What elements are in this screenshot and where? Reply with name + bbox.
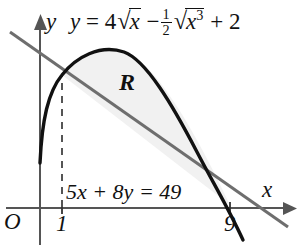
x-axis-arrowhead [283, 202, 297, 215]
region-label-R: R [119, 70, 135, 94]
curve-eq-lhs: y [70, 9, 80, 34]
square-root-icon: √x [116, 8, 141, 33]
square-root-icon-2: √x3 [173, 8, 205, 33]
curve-eq-radicand-2-base: x [186, 9, 196, 34]
fraction-numerator: 1 [161, 7, 172, 22]
curve-eq-constant: 2 [229, 9, 241, 34]
curve-eq-plus: + [210, 9, 223, 34]
math-figure: y = 4√x −12√x3 + 2 5x + 8y = 49 y x O 1 … [0, 0, 305, 251]
origin-label: O [4, 210, 21, 233]
line-equation-label: 5x + 8y = 49 [66, 181, 181, 203]
fraction-denominator: 2 [161, 22, 172, 38]
curve-eq-radicand-2: x3 [185, 8, 204, 33]
x-axis-label: x [262, 178, 272, 201]
y-axis-label: y [46, 10, 56, 33]
curve-eq-equals: = [86, 9, 99, 34]
plot-canvas [0, 0, 305, 251]
x-tick-label-1: 1 [56, 212, 68, 235]
curve-eq-radicand-2-exponent: 3 [196, 7, 203, 23]
curve-equation-label: y = 4√x −12√x3 + 2 [70, 7, 240, 37]
curve-eq-minus: − [147, 9, 160, 34]
curve-eq-radicand-1: x [129, 8, 141, 33]
curve-eq-coefficient: 4 [105, 9, 117, 34]
one-half-fraction: 12 [161, 7, 172, 37]
x-tick-label-9: 9 [224, 212, 236, 235]
